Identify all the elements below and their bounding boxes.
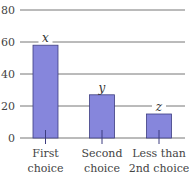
bar-1 xyxy=(33,45,58,138)
bar-chart: 020406080 xyz FirstchoiceSecondchoiceLes… xyxy=(0,0,189,176)
x-axis-category-labels: FirstchoiceSecondchoiceLess than2nd choi… xyxy=(27,147,189,175)
category-label: Second xyxy=(82,147,123,160)
y-tick-label: 20 xyxy=(1,100,15,113)
bar-value-label: z xyxy=(155,100,163,114)
category-label: Less than xyxy=(132,147,186,160)
y-axis-tick-labels: 020406080 xyxy=(1,4,15,145)
bar-value-label: x xyxy=(42,31,49,45)
category-label: First xyxy=(32,147,59,160)
y-tick-label: 60 xyxy=(1,36,15,49)
category-label: choice xyxy=(27,162,63,175)
category-label: choice xyxy=(84,162,120,175)
y-tick-label: 40 xyxy=(1,68,15,81)
bars: xyz xyxy=(33,31,172,144)
y-tick-label: 80 xyxy=(1,4,15,17)
bar-value-label: y xyxy=(98,81,106,95)
y-tick-label: 0 xyxy=(8,132,15,145)
category-label: 2nd choice xyxy=(129,162,189,175)
